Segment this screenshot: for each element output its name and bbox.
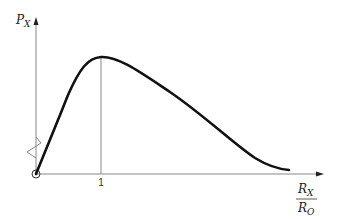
x-axis-label-denominator: RO [297,201,315,217]
y-axis-arrow-icon [34,17,39,25]
power-transfer-diagram: PX 1 RX RO [0,0,339,219]
axis-break-icon [27,137,41,158]
y-axis-label: PX [15,13,31,29]
power-curve [36,57,289,174]
x-tick-label: 1 [98,177,104,188]
x-axis-arrow-icon [316,172,324,177]
x-axis-label-numerator: RX [297,182,314,198]
